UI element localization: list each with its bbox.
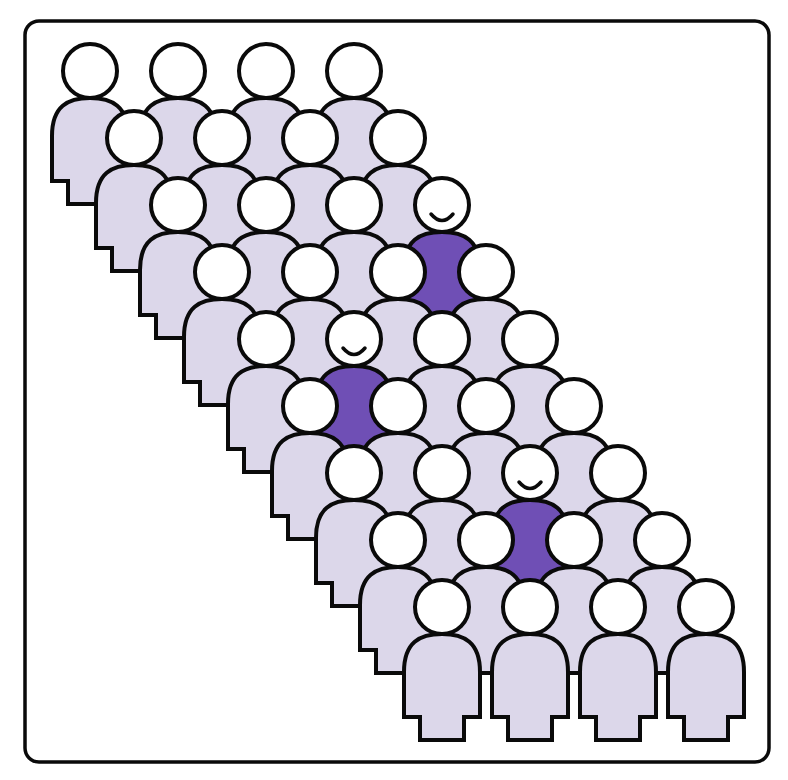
crowd-illustration: [0, 0, 788, 780]
person-head: [63, 44, 117, 98]
person-head: [459, 513, 513, 567]
person-head: [327, 446, 381, 500]
person-head: [459, 379, 513, 433]
person-icon: [580, 580, 656, 740]
person-head: [151, 178, 205, 232]
person-head: [327, 44, 381, 98]
person-head: [371, 111, 425, 165]
person-head: [371, 245, 425, 299]
person-head: [547, 513, 601, 567]
person-head: [503, 580, 557, 634]
person-head: [239, 312, 293, 366]
person-head: [371, 513, 425, 567]
person-head: [327, 178, 381, 232]
person-head: [503, 446, 557, 500]
person-icon: [668, 580, 744, 740]
person-head: [283, 245, 337, 299]
person-head: [547, 379, 601, 433]
person-head: [327, 312, 381, 366]
person-head: [415, 446, 469, 500]
person-head: [679, 580, 733, 634]
person-head: [591, 446, 645, 500]
person-head: [415, 312, 469, 366]
person-head: [503, 312, 557, 366]
person-head: [195, 111, 249, 165]
person-head: [283, 379, 337, 433]
person-head: [239, 44, 293, 98]
person-icon: [404, 580, 480, 740]
person-head: [151, 44, 205, 98]
person-head: [591, 580, 645, 634]
person-head: [415, 580, 469, 634]
person-head: [195, 245, 249, 299]
person-head: [415, 178, 469, 232]
person-head: [371, 379, 425, 433]
person-head: [459, 245, 513, 299]
person-head: [239, 178, 293, 232]
person-icon: [492, 580, 568, 740]
person-head: [635, 513, 689, 567]
person-head: [107, 111, 161, 165]
person-head: [283, 111, 337, 165]
